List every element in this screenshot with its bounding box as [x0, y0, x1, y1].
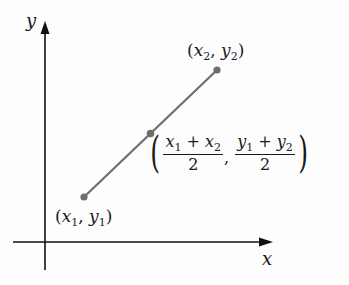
x1-sub: 1: [174, 141, 181, 154]
p2-y: y: [221, 40, 231, 60]
x-axis-arrow-icon: [259, 238, 273, 247]
point-1-label: (x1, y1): [55, 206, 112, 226]
midpoint-x-fraction: x1 + x2 2: [163, 133, 223, 174]
big-paren-close: ): [298, 132, 308, 174]
x-numerator: x1 + x2: [163, 133, 223, 155]
x2: x: [205, 132, 214, 151]
p1-y-sub: 1: [99, 216, 106, 229]
plus: +: [187, 132, 200, 151]
x2-sub: 2: [214, 141, 221, 154]
point-2-label: (x2, y2): [187, 40, 244, 60]
plus: +: [258, 132, 271, 151]
comma: ,: [224, 148, 229, 167]
paren-open: (: [55, 206, 62, 226]
y-numerator: y1 + y2: [235, 133, 295, 155]
comma: ,: [210, 40, 215, 60]
paren-close: ): [238, 40, 245, 60]
y-axis-arrow-icon: [41, 21, 50, 34]
comma: ,: [78, 206, 83, 226]
y1: y: [237, 132, 246, 151]
x-axis-label: x: [262, 248, 272, 269]
p2-y-sub: 2: [231, 50, 238, 63]
y1-sub: 1: [246, 141, 253, 154]
y-axis-label: y: [26, 10, 36, 31]
y-denominator: 2: [260, 155, 270, 174]
midpoint-diagram: y x (x2, y2) (x1, y1) ( x1 + x2 2 , y1 +…: [0, 0, 349, 285]
p2-x: x: [194, 40, 204, 60]
midpoint-label: ( x1 + x2 2 , y1 + y2 2 ): [147, 132, 311, 174]
p1-x: x: [62, 206, 72, 226]
paren-close: ): [106, 206, 113, 226]
y2-sub: 2: [286, 141, 293, 154]
p1-y: y: [89, 206, 99, 226]
midpoint-y-fraction: y1 + y2 2: [235, 133, 295, 174]
paren-open: (: [187, 40, 194, 60]
point-2: [213, 66, 220, 73]
x-denominator: 2: [188, 155, 198, 174]
p2-x-sub: 2: [203, 50, 210, 63]
point-1: [80, 193, 87, 200]
big-paren-open: (: [150, 132, 160, 174]
y2: y: [277, 132, 286, 151]
p1-x-sub: 1: [71, 216, 78, 229]
